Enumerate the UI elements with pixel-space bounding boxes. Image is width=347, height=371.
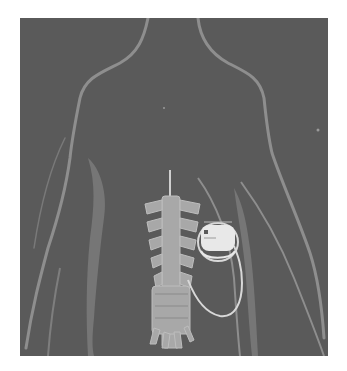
spine — [145, 196, 200, 348]
implanted-device — [198, 222, 238, 261]
torso-illustration — [20, 18, 328, 356]
medical-illustration — [20, 18, 328, 356]
